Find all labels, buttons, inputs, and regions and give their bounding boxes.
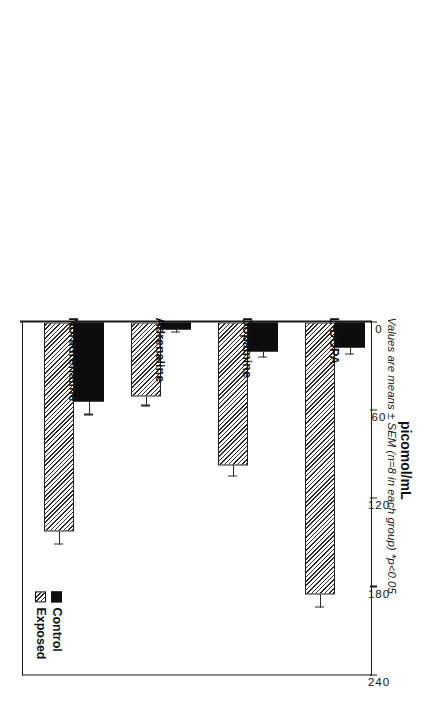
value-axis-tick-label: 0 — [375, 322, 382, 334]
error-bar-line — [320, 594, 321, 607]
legend-label-control: Control — [50, 607, 64, 651]
category-label-adrenaline: Adrenaline — [153, 317, 167, 382]
legend-item-control: Control — [50, 591, 64, 659]
category-label-dopamine: Dopamine — [240, 317, 254, 377]
category-label-noradrenaline: Noradrenaline — [66, 317, 80, 401]
legend-swatch-control-icon — [52, 591, 63, 602]
error-bar-line — [59, 531, 60, 544]
error-bar-cap — [141, 404, 150, 405]
error-bar-cap — [345, 353, 354, 354]
legend-item-exposed: Exposed — [34, 591, 48, 659]
rotated-figure-container: 240180120600 picomol/mL NoradrenalineAdr… — [0, 0, 428, 723]
error-bar-cap — [171, 331, 180, 332]
figure-caption: Values are means ± SEM (n=8 in each grou… — [386, 317, 398, 593]
value-axis-tick-label: 240 — [368, 675, 390, 687]
value-axis-tick-label: 60 — [372, 410, 387, 422]
category-label-l-dopa: L-DOPA — [327, 317, 341, 364]
error-bar-cap — [84, 413, 93, 414]
error-bar-cap — [258, 356, 267, 357]
value-axis-title: picomol/mL — [398, 420, 414, 499]
legend-swatch-exposed-icon — [36, 591, 47, 602]
legend-label-exposed: Exposed — [34, 607, 48, 659]
error-bar-cap — [228, 475, 237, 476]
error-bar-cap — [315, 606, 324, 607]
error-bar-line — [89, 401, 90, 414]
bar-chart-figure: 240180120600 picomol/mL NoradrenalineAdr… — [0, 0, 428, 723]
error-bar-cap — [54, 543, 63, 544]
chart-legend: Control Exposed — [32, 591, 64, 659]
